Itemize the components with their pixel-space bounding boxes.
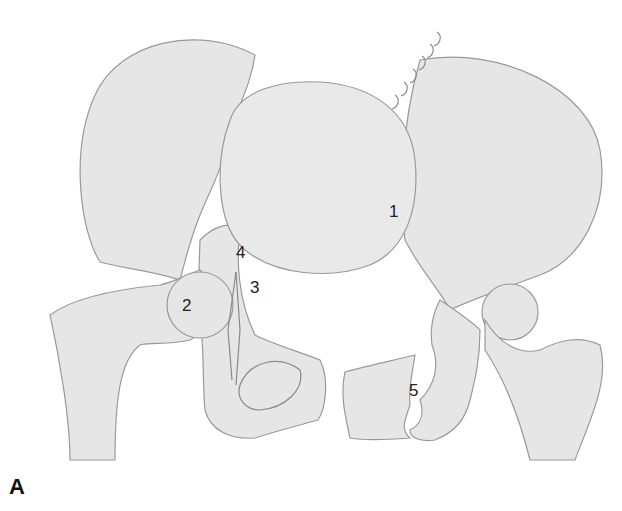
label-1: 1 (389, 202, 398, 222)
fetal-head (220, 82, 416, 274)
right-ilium (402, 57, 602, 310)
pubis-fragment (343, 355, 415, 440)
right-femur (485, 320, 603, 460)
label-5: 5 (409, 381, 418, 401)
left-femoral-head (167, 272, 233, 338)
label-2: 2 (182, 296, 191, 316)
label-4: 4 (236, 243, 245, 263)
right-pubis (410, 300, 480, 441)
pelvis-illustration (0, 0, 622, 511)
label-3: 3 (250, 278, 259, 298)
panel-label: A (9, 474, 25, 500)
